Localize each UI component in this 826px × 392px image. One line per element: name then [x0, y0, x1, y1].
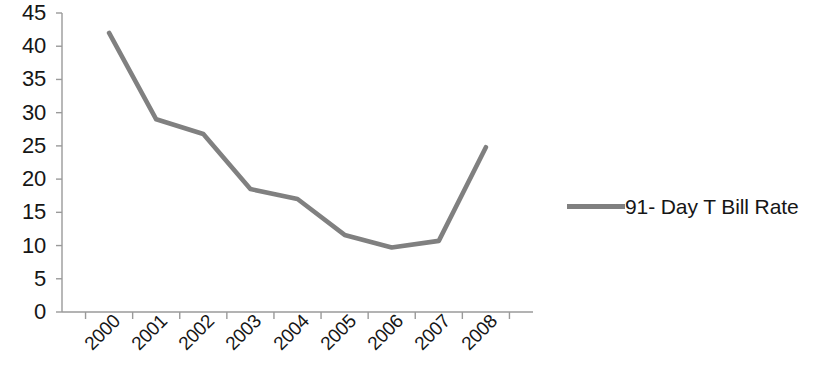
- y-axis-tick-label: 30: [2, 102, 46, 124]
- chart-legend: 91- Day T Bill Rate: [567, 192, 799, 220]
- y-axis-tick-label: 40: [2, 35, 46, 57]
- y-axis-tick-label: 35: [2, 68, 46, 90]
- y-axis-tick-label: 45: [2, 2, 46, 24]
- legend-label-91-day-t-bill-rate: 91- Day T Bill Rate: [625, 196, 799, 217]
- y-axis-tick-label: 15: [2, 201, 46, 223]
- y-axis-tick-label: 25: [2, 135, 46, 157]
- y-axis-tick-label: 0: [2, 301, 46, 323]
- series-line-91-day-t-bill-rate: [109, 33, 486, 248]
- y-axis-tick-label: 5: [2, 268, 46, 290]
- y-axis-tick-label: 20: [2, 168, 46, 190]
- y-axis-tick-label: 10: [2, 235, 46, 257]
- line-chart: 051015202530354045 200020012002200320042…: [0, 0, 826, 392]
- y-axis-ticks: [56, 13, 62, 312]
- legend-swatch-91-day-t-bill-rate: [567, 204, 625, 209]
